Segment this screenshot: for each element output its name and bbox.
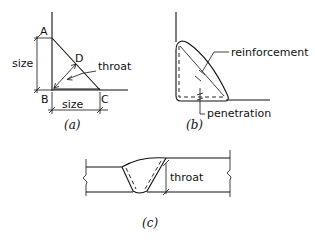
caption-c: (c)	[142, 216, 158, 230]
throat-leader-arrow	[67, 76, 73, 80]
point-b-label: B	[41, 93, 49, 106]
penetration-label: penetration	[207, 107, 271, 120]
weld-fusion-right-dashed	[145, 161, 161, 189]
point-a-label: A	[40, 25, 48, 38]
throat-leader	[68, 71, 96, 79]
figure-a-fillet-weld-geometry: A B C D size size throat (a)	[12, 12, 132, 132]
point-c-label: C	[101, 93, 109, 106]
reinforcement-leader	[202, 52, 229, 72]
caption-a: (a)	[64, 118, 81, 132]
size-vertical-label: size	[12, 57, 34, 70]
weld-crown	[122, 158, 166, 167]
weld-throat-line	[180, 46, 224, 96]
weld-diagram: A B C D size size throat (a) reinforceme…	[0, 0, 315, 243]
left-break-line	[83, 159, 87, 196]
throat-label: throat	[98, 60, 132, 73]
point-d-label: D	[75, 52, 83, 65]
right-break-line	[227, 150, 231, 197]
reinforcement-label: reinforcement	[231, 46, 309, 59]
caption-b: (b)	[186, 118, 203, 132]
figure-b-weld-profile: reinforcement penetration (b)	[176, 12, 309, 132]
size-horizontal-label: size	[62, 98, 84, 111]
figure-c-butt-weld: throat (c)	[83, 150, 231, 230]
throat-dimension-line	[54, 64, 76, 88]
reinforcement-ticks	[195, 70, 205, 81]
throat-label: throat	[170, 171, 204, 184]
